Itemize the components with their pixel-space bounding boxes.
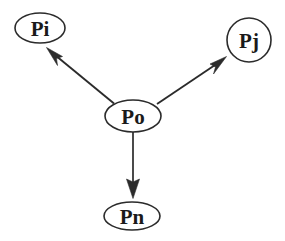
node-pj-label: Pj <box>239 29 259 53</box>
edge-po-to-pi <box>47 48 115 104</box>
arrowhead-pn-icon <box>127 179 140 199</box>
node-pj[interactable]: Pj <box>227 18 271 62</box>
diagram-canvas: Pi Pj Po Pn <box>0 0 285 241</box>
edge-line-po-pj <box>157 63 218 104</box>
graph-svg: Pi Pj Po Pn <box>0 0 285 241</box>
node-po[interactable]: Po <box>105 100 161 132</box>
edge-po-to-pn <box>127 132 140 199</box>
node-pi-label: Pi <box>31 17 50 41</box>
arrowhead-pi-icon <box>47 48 63 66</box>
nodes-group: Pi Pj Po Pn <box>15 13 271 230</box>
node-pi[interactable]: Pi <box>15 13 65 43</box>
arrowhead-pj-icon <box>210 57 227 75</box>
node-pn-label: Pn <box>120 205 145 229</box>
node-pn[interactable]: Pn <box>104 202 160 230</box>
edge-po-to-pj <box>157 57 227 105</box>
edge-line-po-pi <box>55 55 114 104</box>
node-po-label: Po <box>121 105 144 129</box>
